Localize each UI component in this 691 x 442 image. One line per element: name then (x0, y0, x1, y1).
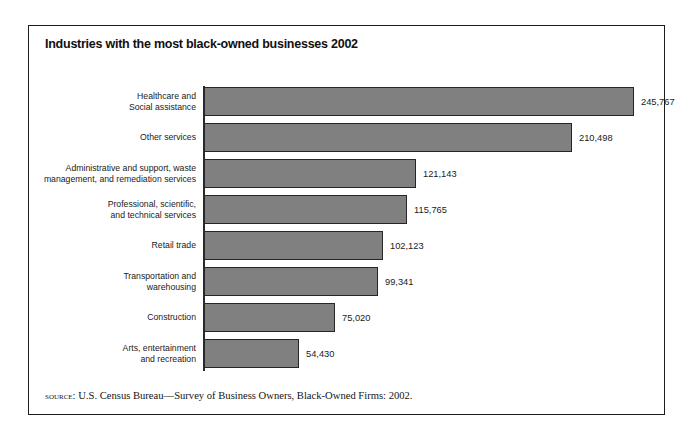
bar (204, 267, 378, 296)
bar-value-label: 115,765 (414, 205, 447, 215)
bar-category-label: Arts, entertainment and recreation (0, 342, 203, 365)
bar-category-label: Healthcare and Social assistance (0, 90, 203, 113)
bar (204, 87, 634, 116)
bar-value-label: 245,767 (641, 97, 675, 107)
bar-category-label: Professional, scientific, and technical … (0, 198, 203, 221)
bar-category-label: Transportation and warehousing (0, 270, 203, 293)
bar-category-label: Retail trade (0, 240, 203, 252)
source-label: source: (45, 390, 76, 401)
bar-row: Construction75,020 (29, 303, 666, 332)
bar-value-label: 75,020 (342, 313, 370, 323)
bar-row: Administrative and support, waste manage… (29, 159, 666, 188)
plot-area: Healthcare and Social assistance245,767O… (29, 74, 666, 374)
bar-row: Retail trade102,123 (29, 231, 666, 260)
bar-value-label: 54,430 (306, 349, 334, 359)
bar-value-label: 121,143 (423, 169, 457, 179)
bar-value-label: 99,341 (385, 277, 413, 287)
bar-category-label: Other services (0, 132, 203, 144)
bar-value-label: 102,123 (390, 241, 424, 251)
bar (204, 195, 407, 224)
bar (204, 303, 335, 332)
bar-category-label: Administrative and support, waste manage… (0, 162, 203, 185)
bar (204, 231, 383, 260)
source-text: U.S. Census Bureau—Survey of Business Ow… (76, 390, 413, 401)
bar-row: Professional, scientific, and technical … (29, 195, 666, 224)
source-note: source: U.S. Census Bureau—Survey of Bus… (45, 390, 412, 401)
page-title: Industries with the most black-owned bus… (45, 37, 358, 51)
chart-frame: Industries with the most black-owned bus… (28, 25, 665, 415)
bar (204, 339, 299, 368)
bar-category-label: Construction (0, 312, 203, 324)
bar-value-label: 210,498 (579, 133, 613, 143)
bar-row: Transportation and warehousing99,341 (29, 267, 666, 296)
bar (204, 123, 572, 152)
bar-row: Other services210,498 (29, 123, 666, 152)
bar-row: Healthcare and Social assistance245,767 (29, 87, 666, 116)
bar-row: Arts, entertainment and recreation54,430 (29, 339, 666, 368)
bar (204, 159, 416, 188)
